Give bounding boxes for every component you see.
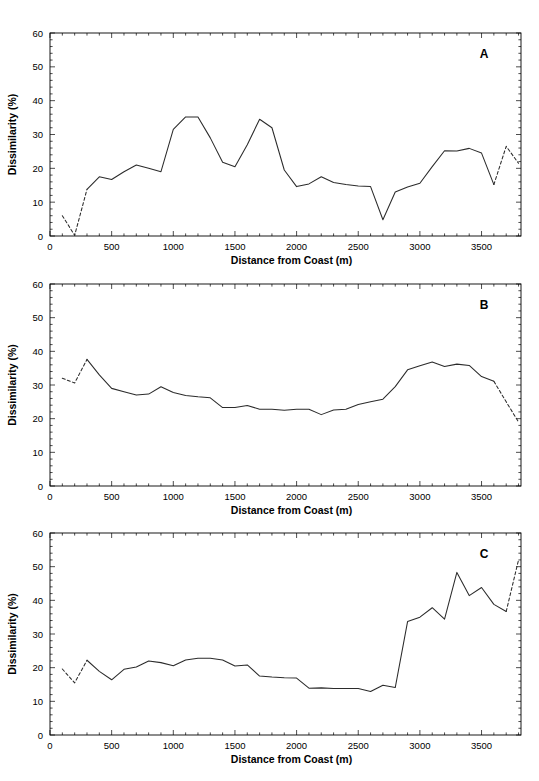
panel-letter-c: C — [480, 547, 489, 561]
plot-frame — [50, 533, 521, 735]
x-tick-label: 3000 — [409, 241, 430, 252]
figure-page: 0500100015002000250030003500010203040506… — [0, 0, 539, 781]
x-tick-label: 500 — [104, 241, 120, 252]
x-tick-label: 500 — [104, 740, 120, 751]
y-tick-label: 40 — [32, 346, 43, 357]
x-tick-label: 0 — [47, 491, 52, 502]
y-tick-label: 30 — [32, 129, 43, 140]
y-tick-label: 0 — [38, 730, 43, 741]
plot-frame — [50, 33, 521, 236]
x-tick-label: 2000 — [286, 491, 307, 502]
series-line-c — [87, 572, 506, 691]
chart-panel-b: 0500100015002000250030003500010203040506… — [0, 270, 539, 520]
x-tick-label: 2500 — [348, 740, 369, 751]
series-line-b-extrapolated — [62, 359, 87, 383]
y-tick-label: 10 — [32, 447, 43, 458]
x-axis-title: Distance from Coast (m) — [231, 504, 352, 516]
y-tick-label: 0 — [38, 231, 43, 242]
series-line-b-extrapolated — [494, 381, 519, 422]
y-tick-label: 60 — [32, 528, 43, 539]
y-axis-title: Dissimilarity (%) — [6, 94, 18, 176]
y-tick-label: 40 — [32, 95, 43, 106]
y-tick-label: 50 — [32, 561, 43, 572]
x-tick-label: 3500 — [471, 740, 492, 751]
series-line-a-extrapolated — [494, 146, 519, 184]
x-tick-label: 3000 — [409, 740, 430, 751]
x-axis-title: Distance from Coast (m) — [231, 254, 352, 266]
x-tick-label: 1000 — [163, 491, 184, 502]
series-line-b — [87, 359, 494, 414]
series-line-a — [87, 117, 494, 220]
x-tick-label: 2000 — [286, 740, 307, 751]
y-axis-title: Dissimilarity (%) — [6, 593, 18, 675]
x-tick-label: 1500 — [224, 740, 245, 751]
x-tick-label: 2500 — [348, 241, 369, 252]
x-tick-label: 0 — [47, 241, 52, 252]
y-tick-label: 60 — [32, 28, 43, 39]
chart-panel-a: 0500100015002000250030003500010203040506… — [0, 0, 539, 270]
chart-panel-c: 0500100015002000250030003500010203040506… — [0, 520, 539, 781]
y-tick-label: 20 — [32, 662, 43, 673]
y-tick-label: 60 — [32, 279, 43, 290]
y-tick-label: 50 — [32, 61, 43, 72]
plot-svg-c: 0500100015002000250030003500010203040506… — [0, 520, 539, 781]
y-tick-label: 50 — [32, 312, 43, 323]
plot-svg-a: 0500100015002000250030003500010203040506… — [0, 0, 539, 270]
y-tick-label: 40 — [32, 595, 43, 606]
series-line-a-extrapolated — [62, 189, 87, 235]
panel-letter-b: B — [480, 298, 489, 312]
series-line-c-extrapolated — [506, 560, 518, 612]
x-tick-label: 3500 — [471, 241, 492, 252]
x-tick-label: 1000 — [163, 241, 184, 252]
y-tick-label: 20 — [32, 413, 43, 424]
x-tick-label: 1500 — [224, 491, 245, 502]
y-tick-label: 30 — [32, 380, 43, 391]
y-tick-label: 0 — [38, 481, 43, 492]
y-axis-title: Dissimilarity (%) — [6, 344, 18, 426]
x-tick-label: 1500 — [224, 241, 245, 252]
series-line-c-extrapolated — [62, 660, 87, 683]
y-tick-label: 20 — [32, 163, 43, 174]
x-tick-label: 3500 — [471, 491, 492, 502]
x-tick-label: 2500 — [348, 491, 369, 502]
y-tick-label: 10 — [32, 197, 43, 208]
x-tick-label: 1000 — [163, 740, 184, 751]
y-tick-label: 30 — [32, 629, 43, 640]
plot-frame — [50, 284, 521, 486]
plot-svg-b: 0500100015002000250030003500010203040506… — [0, 270, 539, 520]
x-tick-label: 3000 — [409, 491, 430, 502]
panel-letter-a: A — [480, 47, 489, 61]
x-tick-label: 2000 — [286, 241, 307, 252]
y-tick-label: 10 — [32, 696, 43, 707]
x-tick-label: 0 — [47, 740, 52, 751]
x-tick-label: 500 — [104, 491, 120, 502]
x-axis-title: Distance from Coast (m) — [231, 753, 352, 765]
